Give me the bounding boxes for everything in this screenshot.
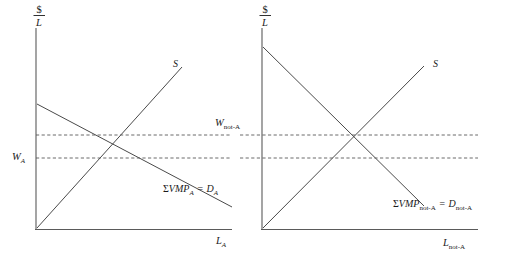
panel-not-a: $ L S ΣVMPnot-A=Dnot-A Lnot-A Wnot-A (215, 4, 478, 251)
svg-text:ΣVMPnot-A=Dnot-A: ΣVMPnot-A=Dnot-A (393, 198, 472, 212)
panel-not-a-supply-label: S (433, 58, 438, 69)
panel-not-a-wage-label-sub: not-A (224, 123, 240, 131)
panel-not-a-demand-d-sub: not-A (456, 204, 472, 212)
svg-text:Lnot-A: Lnot-A (442, 237, 465, 251)
panel-a-demand-vmp-sub: A (188, 189, 194, 197)
labor-market-figure: $ L S ΣVMPA=DA LA WA (0, 0, 506, 262)
panel-not-a-x-axis-label-sub: not-A (449, 243, 465, 251)
panel-not-a-demand-vmp-sub: not-A (419, 204, 435, 212)
panel-not-a-wage-label: Wnot-A (215, 117, 240, 131)
panel-a-demand-vmp: VMP (169, 183, 190, 194)
panel-not-a-demand-label: ΣVMPnot-A=Dnot-A (393, 198, 472, 212)
svg-text:LA: LA (215, 235, 227, 249)
panel-not-a-y-axis-numerator: $ (262, 4, 267, 15)
svg-text:WA: WA (12, 151, 26, 165)
panel-a-y-axis-denominator: L (35, 17, 42, 28)
panel-not-a-x-axis-label: Lnot-A (442, 237, 465, 251)
panel-a: $ L S ΣVMPA=DA LA WA (12, 4, 232, 249)
panel-a-demand-equals: = (197, 183, 204, 194)
panel-a-x-axis-label: LA (215, 235, 227, 249)
panel-a-wage-label: WA (12, 151, 26, 165)
figure-canvas: $ L S ΣVMPA=DA LA WA (0, 0, 506, 262)
panel-a-y-axis-label: $ L (34, 4, 46, 28)
panel-not-a-demand-equals: = (439, 198, 446, 209)
panel-a-x-axis-label-sub: A (221, 241, 227, 249)
svg-text:Wnot-A: Wnot-A (215, 117, 240, 131)
panel-not-a-demand-curve (263, 47, 424, 206)
panel-a-supply-curve (37, 67, 182, 228)
panel-not-a-demand-vmp: VMP (399, 198, 420, 209)
panel-a-demand-d-sub: A (213, 189, 219, 197)
panel-a-y-axis-numerator: $ (36, 4, 41, 15)
panel-not-a-y-axis-denominator: L (261, 17, 268, 28)
panel-not-a-y-axis-label: $ L (260, 4, 272, 28)
panel-a-supply-label: S (173, 58, 178, 69)
panel-a-wage-label-sub: A (20, 157, 26, 165)
